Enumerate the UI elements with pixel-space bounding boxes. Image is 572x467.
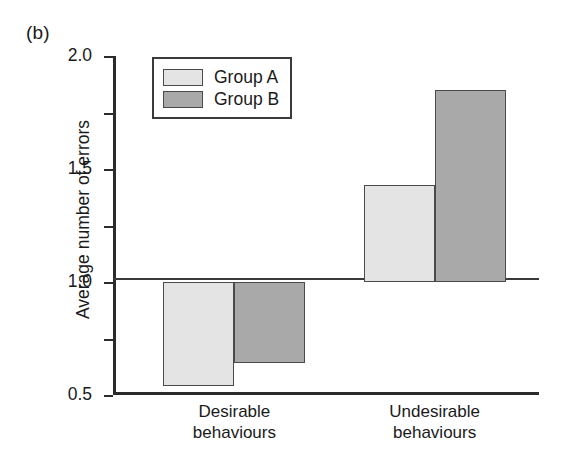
y-tick-mark: 0.5 (104, 226, 113, 228)
category-label-line: behaviours (193, 422, 276, 443)
x-axis-spine (113, 392, 539, 395)
legend-swatch (163, 91, 203, 108)
y-tick-label: 1.0 (68, 271, 92, 292)
y-tick-label: 0.5 (68, 384, 92, 405)
y-tick-mark: –0.1 (104, 395, 113, 397)
y-tick-mark: 1.0 (104, 169, 113, 171)
y-axis-title: Average number of errors (73, 70, 94, 370)
legend-label: Group B (214, 89, 279, 110)
y-tick-mark: –0.5 (104, 339, 113, 341)
category-label-line: Desirable (193, 401, 276, 422)
bar (234, 282, 305, 363)
category-label-line: Undesirable (389, 401, 480, 422)
figure-panel: (b) Average number of errors 2.01.51.00.… (0, 0, 572, 467)
y-tick-label: 2.0 (68, 45, 92, 66)
y-axis-spine (113, 56, 116, 395)
legend-label: Group A (214, 67, 278, 88)
bar (364, 185, 435, 282)
category-label-line: behaviours (389, 422, 480, 443)
bar (435, 90, 506, 282)
y-tick-mark: 0 (104, 282, 113, 284)
y-tick-mark: 1.5 (104, 113, 113, 115)
panel-label: (b) (26, 22, 50, 44)
bar (163, 282, 234, 386)
chart-legend: Group AGroup B (152, 57, 292, 119)
legend-item: Group A (163, 66, 279, 88)
y-tick-label: 1.5 (68, 158, 92, 179)
x-axis-category-label: Undesirablebehaviours (389, 401, 480, 443)
y-tick-mark: 2.0 (104, 56, 113, 58)
legend-swatch (163, 69, 203, 86)
legend-item: Group B (163, 88, 279, 110)
x-axis-category-label: Desirablebehaviours (193, 401, 276, 443)
